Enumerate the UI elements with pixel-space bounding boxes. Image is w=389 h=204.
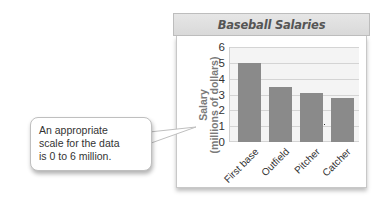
callout-line-3: is 0 to 6 million. — [39, 150, 143, 163]
annotation-callout: An appropriate scale for the data is 0 t… — [30, 117, 152, 171]
bar — [300, 93, 323, 142]
y-tick-label: 3 — [213, 89, 225, 101]
y-tick-label: 0 — [213, 136, 225, 148]
y-tick-label: 5 — [213, 57, 225, 69]
stray-mark — [324, 124, 325, 125]
y-tick-label: 4 — [213, 73, 225, 85]
chart-title-bar: Baseball Salaries — [173, 13, 370, 36]
y-tick-label: 1 — [213, 120, 225, 132]
plot-area — [229, 47, 359, 142]
chart-title: Baseball Salaries — [218, 18, 326, 32]
callout-line-2: scale for the data — [39, 137, 143, 150]
y-tick-label: 6 — [213, 41, 225, 53]
bar — [331, 98, 354, 142]
callout-line-1: An appropriate — [39, 124, 143, 137]
y-tick-label: 2 — [213, 104, 225, 116]
gridline — [230, 47, 359, 48]
bar — [238, 63, 261, 142]
bar — [269, 87, 292, 142]
